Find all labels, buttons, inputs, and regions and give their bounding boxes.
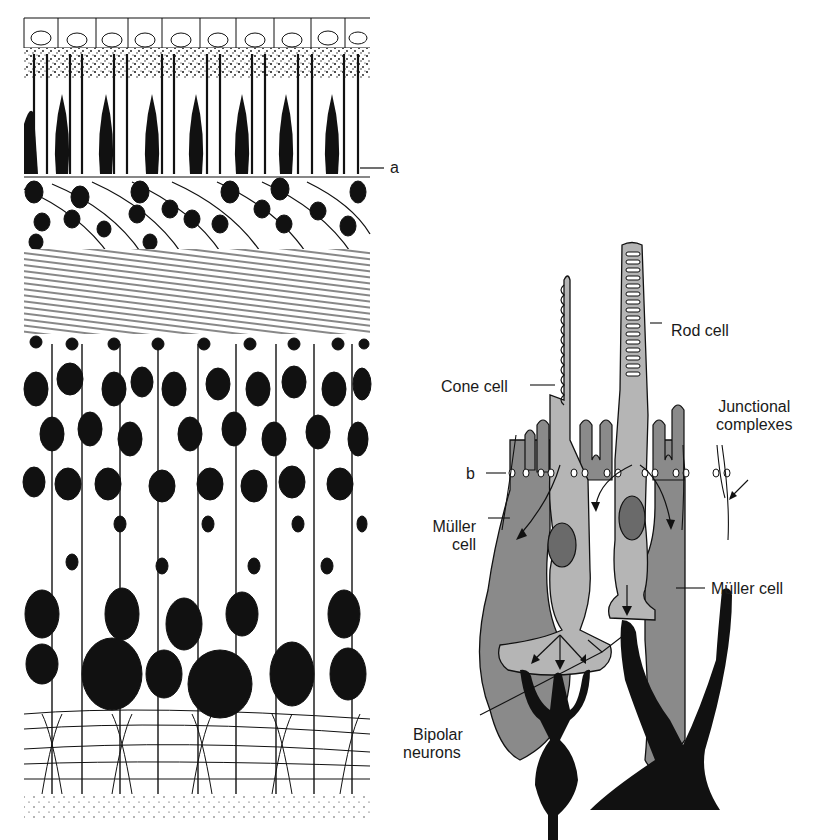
pigment-epithelium-layer [24, 18, 370, 48]
label-cone-cell: Cone cell [441, 378, 508, 396]
rod-cell-shape [609, 243, 655, 621]
label-muller-cell-left: Müller cell [428, 518, 476, 554]
fiber-layer [24, 249, 370, 334]
inner-limiting-speckle [24, 794, 370, 818]
label-bipolar-neurons: Bipolar neurons [403, 726, 463, 762]
label-a: a [390, 159, 399, 177]
cone-nucleus [548, 523, 576, 567]
retina-histology-drawing [22, 14, 372, 820]
outer-nuclear-layer [24, 178, 370, 259]
label-rod-cell: Rod cell [671, 322, 729, 340]
speckle-band [24, 48, 370, 78]
label-b: b [466, 465, 475, 483]
rod-nucleus [619, 496, 645, 540]
nerve-fiber-layer [24, 710, 370, 794]
bipolar-neuron-left [520, 670, 590, 840]
label-junctional-complexes: Junctional complexes [716, 398, 792, 434]
junctional-complexes [509, 469, 730, 477]
histology-svg [22, 14, 372, 820]
label-a-leader [360, 166, 384, 170]
label-muller-cell-right: Müller cell [711, 580, 783, 598]
